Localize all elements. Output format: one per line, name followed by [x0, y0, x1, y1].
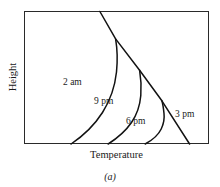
temperature-height-profile-chart: 2 am 9 pm 6 pm 3 pm Temperature Height (… [0, 0, 220, 187]
curve-label-9pm: 9 pm [94, 96, 114, 106]
figure-container: 2 am 9 pm 6 pm 3 pm Temperature Height (… [0, 0, 220, 187]
figure-caption: (a) [104, 171, 116, 183]
curve-label-6pm: 6 pm [126, 116, 146, 126]
y-axis-label: Height [7, 63, 18, 92]
x-axis-label: Temperature [90, 149, 143, 160]
curve-label-2am: 2 am [63, 77, 82, 87]
curve-label-3pm: 3 pm [175, 109, 195, 119]
